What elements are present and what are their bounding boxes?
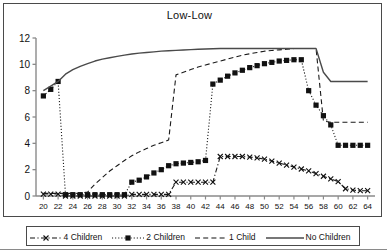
- legend-swatch-dashed: [194, 233, 228, 242]
- svg-text:10: 10: [19, 59, 31, 70]
- legend-items: 4 Children2 Children1 ChildNo Children: [27, 227, 361, 247]
- series-1-child: [43, 49, 367, 194]
- svg-text:0: 0: [24, 191, 30, 202]
- page-bottom-rule: [0, 249, 387, 250]
- svg-text:54: 54: [289, 202, 298, 211]
- svg-text:12: 12: [19, 33, 31, 44]
- svg-text:42: 42: [201, 202, 210, 211]
- svg-text:36: 36: [157, 202, 166, 211]
- legend-item-2-children: 2 Children: [111, 232, 194, 242]
- legend-item-no-children: No Children: [265, 232, 360, 242]
- svg-text:62: 62: [348, 202, 357, 211]
- svg-text:20: 20: [39, 202, 48, 211]
- svg-text:2: 2: [24, 164, 30, 175]
- svg-text:26: 26: [83, 202, 92, 211]
- svg-text:6: 6: [24, 112, 30, 123]
- legend-label: 1 Child: [229, 232, 264, 242]
- legend-swatch-dotted-square: [111, 233, 145, 242]
- chart-screenshot: Low-Low 024681012 2022242628303234363840…: [0, 0, 387, 252]
- svg-text:56: 56: [304, 202, 313, 211]
- svg-text:32: 32: [127, 202, 136, 211]
- y-axis-ticks: 024681012: [19, 33, 36, 202]
- series-no-children: [43, 49, 367, 91]
- svg-text:4: 4: [24, 138, 30, 149]
- legend-label: 2 Children: [146, 232, 194, 242]
- svg-text:44: 44: [216, 202, 225, 211]
- chart-plot-area: 024681012 202224262830323436384042444648…: [3, 3, 382, 217]
- legend-item-1-child: 1 Child: [194, 232, 264, 242]
- x-axis-ticks: 2022242628303234363840424446485052545658…: [39, 196, 373, 211]
- svg-text:30: 30: [113, 202, 122, 211]
- legend-swatch-dash-dot-x: [29, 233, 63, 242]
- svg-text:24: 24: [68, 202, 77, 211]
- svg-text:64: 64: [363, 202, 372, 211]
- svg-text:48: 48: [245, 202, 254, 211]
- data-series-group: [41, 49, 370, 199]
- legend-label: No Children: [306, 232, 360, 242]
- svg-text:40: 40: [186, 202, 195, 211]
- chart-legend: 4 Children2 Children1 ChildNo Children: [26, 226, 360, 246]
- series-2-children: [41, 57, 370, 197]
- svg-text:34: 34: [142, 202, 151, 211]
- svg-text:8: 8: [24, 85, 30, 96]
- svg-text:50: 50: [260, 202, 269, 211]
- svg-text:38: 38: [172, 202, 181, 211]
- svg-text:28: 28: [98, 202, 107, 211]
- svg-text:46: 46: [231, 202, 240, 211]
- svg-text:60: 60: [334, 202, 343, 211]
- legend-label: 4 Children: [64, 232, 112, 242]
- svg-text:22: 22: [54, 202, 63, 211]
- legend-swatch-solid: [265, 233, 305, 242]
- svg-text:58: 58: [319, 202, 328, 211]
- svg-text:52: 52: [275, 202, 284, 211]
- legend-item-4-children: 4 Children: [29, 232, 112, 242]
